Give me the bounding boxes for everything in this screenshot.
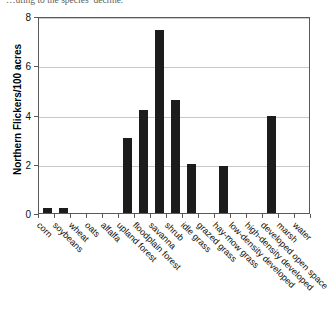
y-axis-title: Northern Flickers/100 acres <box>12 15 23 205</box>
plot-area <box>38 17 310 214</box>
x-axis-labels: cornsoybeanswheatoatsalfalfaupland fores… <box>38 220 310 319</box>
x-tick-mark <box>70 214 71 218</box>
x-tick-mark <box>102 214 103 218</box>
x-tick-mark <box>230 214 231 218</box>
y-tick-label: 6 <box>25 61 31 72</box>
x-tick-mark <box>134 214 135 218</box>
bar <box>219 166 228 213</box>
bar-series <box>39 18 309 213</box>
x-tick-mark <box>182 214 183 218</box>
x-tick-mark <box>166 214 167 218</box>
x-tick-mark <box>278 214 279 218</box>
x-tick-mark <box>214 214 215 218</box>
x-tick-mark <box>150 214 151 218</box>
x-tick-mark <box>118 214 119 218</box>
bar <box>43 208 52 213</box>
x-tick-mark <box>38 214 39 218</box>
y-tick-label: 0 <box>25 209 31 220</box>
y-tick-label: 4 <box>25 110 31 121</box>
y-tick-label: 2 <box>25 159 31 170</box>
x-tick-mark <box>246 214 247 218</box>
x-tick-mark <box>86 214 87 218</box>
caption-fragment: …uting to the species’ decline. <box>6 0 306 5</box>
bar <box>187 164 196 213</box>
x-axis-label: corn <box>35 220 54 239</box>
bar <box>171 100 180 213</box>
x-tick-mark <box>54 214 55 218</box>
x-tick-mark <box>310 214 311 218</box>
bar <box>123 138 132 213</box>
bar <box>155 30 164 213</box>
bar <box>139 110 148 213</box>
x-tick-mark <box>294 214 295 218</box>
x-tick-mark <box>262 214 263 218</box>
bar <box>267 116 276 213</box>
bar <box>59 208 68 213</box>
x-axis-ticks <box>38 214 310 219</box>
x-tick-mark <box>198 214 199 218</box>
y-tick-label: 8 <box>25 12 31 23</box>
